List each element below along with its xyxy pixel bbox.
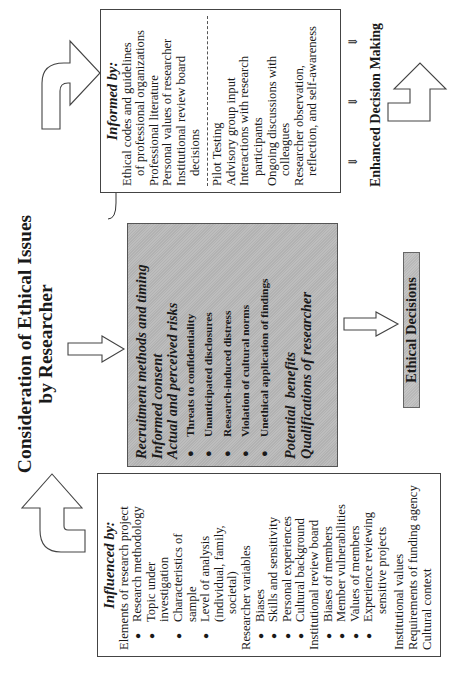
list-item: Personal values of researcher	[161, 16, 175, 186]
list-item: ●Values of members	[349, 480, 363, 650]
list-item: ●Experience reviewingsensitive projects	[362, 480, 389, 650]
risk-item: ●Violation of cultural norms	[236, 231, 255, 459]
list-item: ●Research methodology	[131, 480, 145, 650]
risk-item: ●Unethical application of findings	[255, 231, 274, 459]
list-item: Institutional review boarddecisions	[175, 16, 202, 186]
bullet-icon: ●	[294, 633, 308, 639]
group-label: Institutional review board	[308, 480, 322, 650]
list-item: ●Member vulnerabilities	[335, 480, 349, 650]
risk-item: ●Unanticipated disclosures	[199, 231, 218, 459]
issue-item: Qualifications of researcher	[299, 231, 315, 459]
list-item: ●Biases	[254, 480, 268, 650]
group-label: Elements of research project	[118, 480, 132, 650]
arrow-to-decisions-icon	[344, 312, 398, 336]
list-item: Professional literature	[148, 16, 162, 186]
list-item: ●Level of analysis(individual, family,so…	[199, 480, 240, 650]
risk-item: ●Threats to confidentiality	[181, 231, 200, 459]
bullet-icon: ●	[322, 633, 336, 639]
list-item: Researcher observation,reflection, and s…	[293, 16, 320, 186]
trailing-item: Requirements of funding agency	[407, 480, 421, 650]
bullet-icon: ●	[199, 450, 218, 457]
enhanced-decision-making-label: Enhanced Decision Making	[368, 7, 384, 203]
informed-header: Informed by:	[106, 16, 120, 186]
bullet-icon: ●	[145, 633, 159, 639]
trailing-item: Institutional values	[393, 480, 407, 650]
bullet-icon: ●	[362, 633, 376, 639]
arrow-title-to-center-icon	[68, 336, 124, 362]
list-item: ●Biases of members	[322, 480, 336, 650]
double-arrow-down-icon: ⇓	[346, 157, 360, 167]
bullet-icon: ●	[255, 450, 274, 457]
list-item: ●Characteristics ofsample	[172, 480, 199, 650]
bullet-icon: ●	[172, 633, 186, 639]
list-item: ●Skills and sensitivity	[267, 480, 281, 650]
trailing-item: Cultural context	[421, 480, 435, 650]
bullet-icon: ●	[131, 633, 145, 639]
risk-item: ●Research-induced distress	[218, 231, 237, 459]
ethics-diagram: Consideration of Ethical Issues by Resea…	[0, 0, 454, 689]
issue-item: Actual and perceived risks	[165, 231, 181, 459]
bullet-icon: ●	[281, 633, 295, 639]
bullet-icon: ●	[181, 450, 200, 457]
ethical-issues-box: Recruitment methods and timing Informed …	[127, 223, 338, 467]
issue-item: Potential benefits	[283, 231, 299, 459]
list-item: Ongoing discussions withcolleagues	[266, 16, 293, 186]
bullet-icon: ●	[254, 633, 268, 639]
bullet-icon: ●	[267, 633, 281, 639]
bullet-icon: ●	[218, 450, 237, 457]
bullet-icon: ●	[335, 633, 349, 639]
curved-arrow-informed-icon	[30, 29, 100, 129]
group-label: Researcher variables	[240, 480, 254, 650]
list-item: Pilot Testing	[211, 16, 225, 186]
influenced-header: Influenced by:	[103, 480, 117, 650]
curved-arrow-influenced-icon	[18, 472, 93, 552]
double-arrow-down-icon: ⇓	[346, 37, 360, 47]
bullet-icon: ●	[199, 633, 213, 639]
issue-item: Recruitment methods and timing	[134, 231, 150, 459]
issue-item: Informed consent	[150, 231, 166, 459]
bullet-icon: ●	[236, 450, 255, 457]
list-item: Interactions with researchparticipants	[238, 16, 265, 186]
influenced-by-box: Influenced by: Elements of research proj…	[97, 473, 441, 657]
double-arrows: ⇓ ⇓ ⇓	[346, 11, 360, 191]
double-arrow-down-icon: ⇓	[346, 97, 360, 107]
list-item: ●Topic underinvestigation	[145, 480, 172, 650]
list-item: ●Cultural background	[294, 480, 308, 650]
list-item: ●Personal experiences	[281, 480, 295, 650]
bent-arrow-return-icon	[386, 63, 448, 133]
ethical-decisions-box: Ethical Decisions	[403, 252, 420, 408]
list-item: Advisory group input	[225, 16, 239, 186]
informed-by-box: Informed by: Ethical codes and guideline…	[100, 9, 341, 193]
bullet-icon: ●	[349, 633, 363, 639]
list-item: Ethical codes and guidelinesof professio…	[121, 16, 148, 186]
dashed-divider	[207, 16, 208, 186]
